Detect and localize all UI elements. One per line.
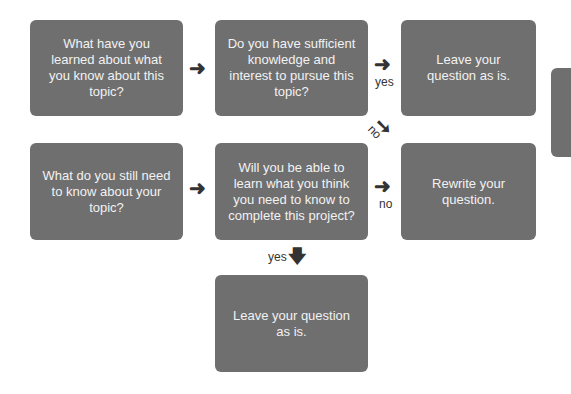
- arrow-right-icon: ➜: [189, 178, 206, 198]
- label-yes: yes: [375, 75, 394, 89]
- box-still-need: What do you still need to know about you…: [30, 143, 183, 240]
- arrow-down-icon: 🡇: [288, 246, 307, 266]
- box-still-need-text: What do you still need to know about you…: [40, 168, 173, 216]
- box-able-to-learn-text: Will you be able to learn what you think…: [225, 160, 358, 224]
- label-yes-down: yes: [268, 250, 287, 264]
- box-leave-top: Leave your question as is.: [401, 20, 536, 116]
- box-leave-bottom-text: Leave your question as is.: [225, 308, 358, 340]
- label-no: no: [379, 197, 392, 211]
- box-rewrite: Rewrite your question.: [401, 143, 536, 240]
- box-rewrite-text: Rewrite your question.: [411, 176, 526, 208]
- box-able-to-learn: Will you be able to learn what you think…: [215, 143, 368, 240]
- box-leave-bottom: Leave your question as is.: [215, 275, 368, 372]
- side-tab: [551, 68, 571, 157]
- box-learned-text: What have you learned about what you kno…: [40, 36, 173, 100]
- box-sufficient: Do you have sufficient knowledge and int…: [215, 20, 368, 116]
- arrow-right-icon: ➜: [189, 58, 206, 78]
- box-leave-top-text: Leave your question as is.: [411, 52, 526, 84]
- arrow-right-icon: ➜: [374, 176, 391, 196]
- box-sufficient-text: Do you have sufficient knowledge and int…: [225, 36, 358, 100]
- arrow-right-icon: ➜: [374, 54, 391, 74]
- box-learned: What have you learned about what you kno…: [30, 20, 183, 116]
